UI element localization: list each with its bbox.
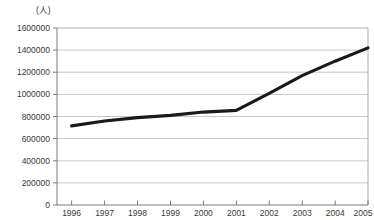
x-tick-label-2004: 2004 (326, 208, 345, 218)
x-tick-label-2005: 2005 (354, 208, 373, 218)
y-tick-label-800000: 800000 (22, 112, 51, 122)
x-tick-label-1997: 1997 (95, 208, 114, 218)
x-tick-label-1999: 1999 (161, 208, 180, 218)
x-tick-label-1996: 1996 (62, 208, 81, 218)
chart-background (0, 0, 374, 220)
y-tick-label-1400000: 1400000 (17, 45, 50, 55)
y-axis-unit-label: (人) (36, 5, 51, 15)
y-tick-label-1000000: 1000000 (17, 89, 50, 99)
x-tick-label-2001: 2001 (227, 208, 246, 218)
x-tick-label-2003: 2003 (293, 208, 312, 218)
y-tick-label-1600000: 1600000 (17, 23, 50, 33)
y-tick-label-600000: 600000 (22, 134, 51, 144)
y-axis-tick-labels: 1600000 1400000 1200000 1000000 800000 6… (17, 23, 50, 210)
chart-screenshot: (人) 1 (0, 0, 374, 220)
y-tick-label-400000: 400000 (22, 156, 51, 166)
y-tick-label-1200000: 1200000 (17, 67, 50, 77)
x-tick-label-2000: 2000 (194, 208, 213, 218)
x-tick-label-1998: 1998 (128, 208, 147, 218)
line-chart: (人) 1 (0, 0, 374, 220)
x-tick-label-2002: 2002 (260, 208, 279, 218)
y-tick-label-0: 0 (45, 200, 50, 210)
y-tick-label-200000: 200000 (22, 178, 51, 188)
